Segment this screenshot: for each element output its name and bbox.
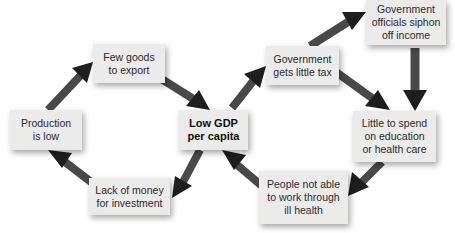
arrow-lowgdp-to-govtax [232, 66, 266, 108]
node-officials-siphon: Government officials siphon off income [366, 0, 446, 45]
node-people-not-able: People not able to work through ill heal… [259, 171, 348, 224]
arrow-lackmoney-to-production [48, 150, 95, 185]
node-production-low: Production is low [10, 110, 82, 150]
arrow-govtax-to-siphon [310, 12, 366, 46]
arrow-siphon-to-littlespend [403, 48, 427, 111]
node-little-to-spend: Little to spend on education or health c… [353, 111, 436, 162]
node-lack-money: Lack of money for investment [89, 178, 170, 215]
arrow-lowgdp-to-lackmoney [172, 150, 200, 198]
arrow-littlespend-to-people [348, 162, 382, 196]
poverty-cycle-diagram: Low GDP per capita Few goods to export P… [0, 0, 455, 233]
node-low-gdp: Low GDP per capita [179, 110, 248, 150]
arrow-govtax-to-littlespend [336, 72, 390, 110]
arrow-fewgoods-to-lowgdp [160, 78, 210, 110]
node-few-goods: Few goods to export [93, 44, 165, 83]
arrow-production-to-fewgoods [48, 62, 93, 110]
node-gov-little-tax: Government gets little tax [266, 46, 339, 85]
arrow-people-to-lowgdp [222, 150, 262, 186]
